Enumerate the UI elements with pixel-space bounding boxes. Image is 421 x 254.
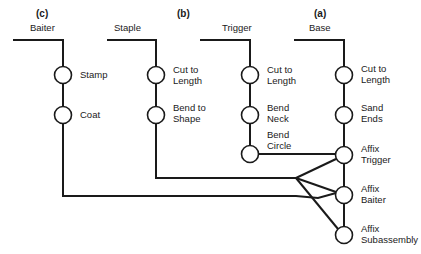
op-sand-ends-2: Ends	[361, 113, 383, 124]
op-sand-ends-1: Sand	[361, 102, 383, 113]
node-affix-trigger	[336, 147, 353, 164]
assembly-chart: (c) (b) (a) Baiter Staple Trigger Base S…	[0, 0, 421, 254]
base-flow	[294, 40, 353, 244]
node-trigger-cut	[242, 67, 259, 84]
op-stamp: Stamp	[80, 69, 107, 80]
op-staple-cut-1: Cut to	[173, 64, 198, 75]
op-trigger-cut-1: Cut to	[267, 64, 292, 75]
op-bend-neck-2: Neck	[267, 113, 289, 124]
op-affix-subassembly-2: Subassembly	[361, 234, 418, 245]
op-trigger-cut-2: Length	[267, 75, 296, 86]
tag-c: (c)	[36, 8, 48, 19]
op-affix-baiter-2: Baiter	[361, 194, 386, 205]
op-base-cut-2: Length	[361, 74, 390, 85]
node-sand-ends	[336, 107, 353, 124]
node-affix-baiter	[336, 187, 353, 204]
tag-b: (b)	[177, 8, 190, 19]
op-coat: Coat	[80, 109, 100, 120]
op-base-cut-1: Cut to	[361, 63, 386, 74]
node-bend-circle	[242, 146, 259, 163]
node-bend-neck	[242, 107, 259, 124]
op-staple-cut-2: Length	[173, 75, 202, 86]
op-staple-bend-2: Shape	[173, 113, 200, 124]
staple-flow	[107, 40, 338, 229]
op-affix-baiter-1: Affix	[361, 183, 380, 194]
op-staple-bend-1: Bend to	[173, 102, 206, 113]
node-coat	[55, 107, 72, 124]
node-stamp	[55, 67, 72, 84]
node-affix-subassembly	[336, 227, 353, 244]
component-baiter: Baiter	[30, 22, 55, 33]
node-staple-cut	[148, 67, 165, 84]
op-affix-trigger-2: Trigger	[361, 154, 391, 165]
op-bend-neck-1: Bend	[267, 102, 289, 113]
component-staple: Staple	[114, 22, 141, 33]
op-bend-circle-1: Bend	[267, 129, 289, 140]
op-bend-circle-2: Circle	[267, 140, 291, 151]
tag-a: (a)	[314, 8, 326, 19]
op-affix-subassembly-1: Affix	[361, 223, 380, 234]
node-base-cut	[336, 67, 353, 84]
component-trigger: Trigger	[222, 22, 252, 33]
node-staple-bend	[148, 107, 165, 124]
op-affix-trigger-1: Affix	[361, 143, 380, 154]
component-base: Base	[309, 22, 331, 33]
